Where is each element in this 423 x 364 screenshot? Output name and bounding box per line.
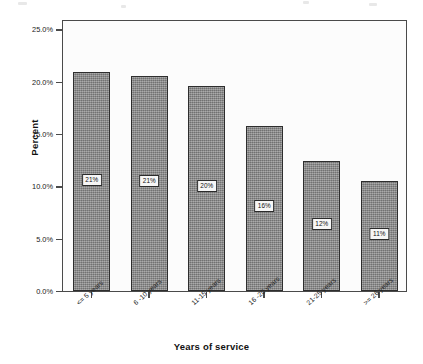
- bar: 21%: [73, 72, 110, 291]
- y-axis-tick-label: 20.0%: [32, 77, 53, 89]
- y-axis-tick: 0.0%: [0, 286, 62, 298]
- bar: 11%: [361, 181, 398, 291]
- y-axis-tick: 15.0%: [0, 129, 62, 141]
- bar-value-label: 21%: [82, 174, 102, 186]
- y-axis-tick: 20.0%: [0, 77, 62, 89]
- bar: 12%: [303, 161, 340, 291]
- y-axis-tick: 10.0%: [0, 181, 62, 193]
- x-axis-title: Years of service: [0, 341, 423, 352]
- bar-value-label: 20%: [197, 180, 217, 192]
- y-axis-tick-label: 0.0%: [36, 286, 53, 298]
- y-axis-tick-label: 10.0%: [32, 181, 53, 193]
- y-axis-tick-label: 5.0%: [36, 234, 53, 246]
- bar: 21%: [131, 76, 168, 292]
- bar-value-label: 21%: [139, 175, 159, 187]
- y-axis-tick-label: 25.0%: [32, 24, 53, 36]
- bar-value-label: 12%: [312, 218, 332, 230]
- plot-area: 21%21%20%16%12%11%: [62, 20, 407, 292]
- bar-value-label: 16%: [254, 200, 274, 212]
- y-axis-tick: 5.0%: [0, 234, 62, 246]
- bar: 20%: [188, 86, 225, 291]
- bar-value-label: 11%: [370, 228, 389, 240]
- bar-chart: Percent 0.0%5.0%10.0%15.0%20.0%25.0% 21%…: [0, 0, 423, 364]
- y-axis-tick: 25.0%: [0, 24, 62, 36]
- bar: 16%: [246, 126, 283, 291]
- y-axis-tick-label: 15.0%: [32, 129, 53, 141]
